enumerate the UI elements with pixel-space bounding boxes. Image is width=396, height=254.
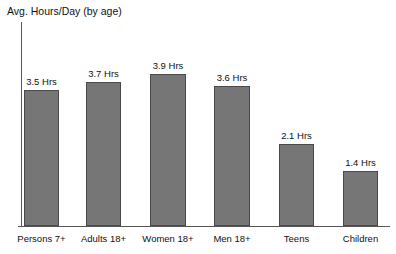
bar-group: 3.7 HrsAdults 18+: [86, 82, 121, 226]
x-axis-category-label: Adults 18+: [81, 233, 126, 244]
bar-value-label: 2.1 Hrs: [281, 130, 312, 141]
bar-group: 3.5 HrsPersons 7+: [24, 90, 59, 226]
x-axis-category-label: Women 18+: [142, 233, 193, 244]
bar-group: 3.6 HrsMen 18+: [214, 86, 250, 226]
plot-area: 3.5 HrsPersons 7+3.7 HrsAdults 18+3.9 Hr…: [0, 0, 396, 254]
bar-group: 2.1 HrsTeens: [279, 144, 314, 226]
bar-group: 1.4 HrsChildren: [343, 171, 378, 226]
bar: [279, 144, 314, 226]
x-axis-category-label: Teens: [284, 233, 309, 244]
bar: [214, 86, 250, 226]
bar: [343, 171, 378, 226]
x-axis-category-label: Persons 7+: [17, 233, 65, 244]
bar-value-label: 3.9 Hrs: [153, 60, 184, 71]
bar: [86, 82, 121, 226]
x-axis-category-label: Men 18+: [213, 233, 250, 244]
bar-value-label: 3.6 Hrs: [217, 72, 248, 83]
bar-group: 3.9 HrsWomen 18+: [150, 74, 186, 226]
bar: [24, 90, 59, 226]
bar-chart: Avg. Hours/Day (by age) 3.5 HrsPersons 7…: [0, 0, 396, 254]
bar-value-label: 3.7 Hrs: [88, 68, 119, 79]
bar-value-label: 3.5 Hrs: [26, 76, 57, 87]
bar: [150, 74, 186, 226]
bar-value-label: 1.4 Hrs: [345, 157, 376, 168]
x-axis-category-label: Children: [343, 233, 378, 244]
